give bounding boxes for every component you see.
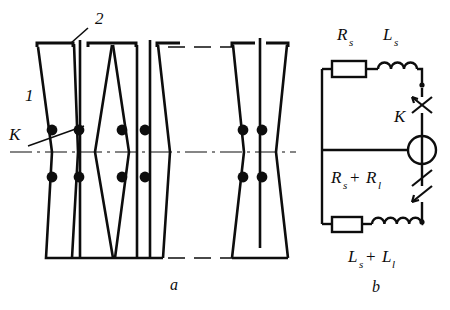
panel-b-caption: b [372,278,380,295]
label-lsum-first-main: L [347,247,357,266]
switch-k-label: K [393,107,407,126]
label-rsum-second-main: R [365,168,377,187]
label-rsum-first-main: R [330,168,342,187]
transposition-dot [117,125,128,136]
label-lsum-first-subscript: s [359,258,363,270]
label-lsum-second-main: L [381,247,391,266]
transposition-dot [238,172,249,183]
panel-a-caption: a [170,276,178,293]
transposition-dot [257,125,268,136]
switch-lower-cross [412,186,432,202]
callout-2-label: 2 [95,9,104,28]
panel-a-group: 2 1 K a [8,9,296,293]
resistor-rs-plus-rl-symbol [332,217,362,232]
figure-root: 2 1 K a [0,0,450,310]
transposition-dot [74,172,85,183]
label-rs-subscript: s [349,36,353,48]
transposition-dot [140,125,151,136]
label-lsum-plus: + [366,247,376,266]
label-rsum-second-subscript: l [378,179,381,191]
label-ls-subscript: s [394,36,398,48]
label-rsum-plus: + [350,168,360,187]
bar-r-top-cap-right [266,43,288,47]
callout-1-label: 1 [25,86,34,105]
figure-svg: 2 1 K a [0,0,450,310]
bar-1-inner-profile [72,44,78,258]
transposition-dot [117,172,128,183]
transposition-dot [47,125,58,136]
bar-r-top-cap-left [232,43,255,47]
bar-1-top-cap [37,43,73,47]
panel-b-group: K R s L s R s [322,25,436,295]
transposition-dot [238,125,249,136]
label-lsum-second-subscript: l [392,258,395,270]
transposition-dot [257,172,268,183]
transposition-dot [140,172,151,183]
label-rsum-first-subscript: s [343,179,347,191]
inductor-ls-plus-ll-symbol [372,218,422,224]
switch-top-terminal [419,82,424,87]
callout-k-label: K [8,125,22,144]
transposition-dot [47,172,58,183]
label-rs-main: R [336,25,348,44]
label-ls-main: L [382,25,392,44]
resistor-rs-symbol [332,61,366,77]
inductor-ls-symbol [378,63,417,69]
